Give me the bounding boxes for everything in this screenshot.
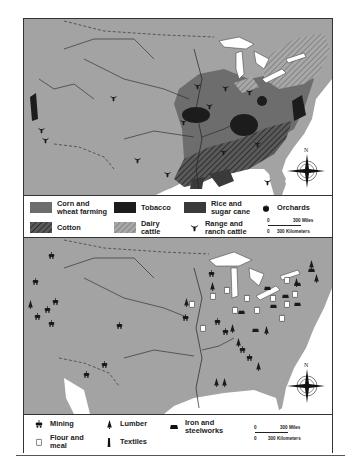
legend-tobacco: Tobacco: [114, 202, 171, 213]
agriculture-map-graphic: N: [24, 19, 332, 195]
rice-sugar-swatch: [184, 202, 206, 213]
furnace-icon: [169, 422, 179, 432]
tree-icon: [104, 419, 114, 429]
compass-rose: N: [287, 147, 325, 188]
agriculture-map-panel: N Corn andwheat farming Tobacco Rice and…: [23, 18, 333, 237]
legend-label: Tobacco: [141, 204, 171, 212]
scale-bar: 0 300 Miles 0 300 Kilometers: [254, 425, 324, 443]
flour-sack-icon: [34, 437, 44, 447]
cattle-head-icon: [189, 223, 199, 233]
mining-cart-icon: [34, 419, 44, 429]
legend-dairy: Dairycattle: [114, 220, 160, 235]
legend-flour-meal: Flour andmeal: [34, 434, 84, 449]
legend-textiles: Textiles: [104, 437, 147, 447]
industry-map-panel: N Mining Lumber Iron andsteelworks Flour…: [23, 237, 333, 453]
apple-icon: [261, 203, 271, 213]
legend-cotton: Cotton: [30, 222, 81, 233]
corn-wheat-swatch: [30, 202, 52, 213]
industry-map-graphic: N: [24, 238, 332, 414]
cotton-swatch: [30, 222, 52, 233]
scale-line: [255, 432, 288, 433]
legend-range-cattle: Range andranch cattle: [189, 220, 247, 235]
tobacco-swatch: [114, 202, 136, 213]
legend-orchards: Orchards: [261, 203, 310, 213]
agriculture-map: N: [24, 19, 332, 195]
dairy-swatch: [114, 222, 136, 233]
legend-lumber: Lumber: [104, 419, 147, 429]
page-divider: [16, 455, 345, 456]
svg-text:N: N: [304, 147, 309, 153]
legend-corn-wheat: Corn andwheat farming: [30, 200, 107, 215]
svg-text:N: N: [304, 362, 309, 368]
spindle-icon: [104, 437, 114, 447]
legend-rice-sugar: Rice andsugar cane: [184, 200, 250, 215]
legend-mining: Mining: [34, 419, 74, 429]
agriculture-legend: Corn andwheat farming Tobacco Rice andsu…: [24, 195, 332, 238]
scale-line: [268, 225, 301, 226]
industry-map: N: [24, 238, 332, 414]
scale-bar: 0 300 Miles 0 300 Kilometers: [267, 218, 327, 236]
industry-legend: Mining Lumber Iron andsteelworks Flour a…: [24, 414, 332, 453]
legend-iron-steel: Iron andsteelworks: [169, 419, 223, 434]
